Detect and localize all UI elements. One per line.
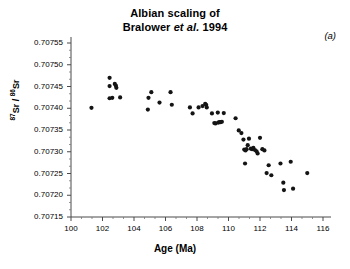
y-tick-label: 0.70720 bbox=[17, 191, 63, 199]
data-point bbox=[281, 181, 285, 185]
data-point bbox=[149, 90, 153, 94]
data-point bbox=[258, 136, 262, 140]
data-point bbox=[222, 111, 226, 115]
data-point bbox=[282, 188, 286, 192]
data-point bbox=[157, 101, 161, 105]
data-point bbox=[267, 163, 271, 167]
data-point bbox=[246, 143, 250, 147]
data-point bbox=[243, 161, 247, 165]
data-point bbox=[168, 90, 172, 94]
data-point bbox=[110, 96, 114, 100]
data-point bbox=[241, 137, 245, 141]
data-point bbox=[190, 111, 194, 115]
data-point bbox=[188, 105, 192, 109]
data-point bbox=[289, 160, 293, 164]
data-point bbox=[239, 131, 243, 135]
data-point bbox=[269, 173, 273, 177]
x-tick-label: 102 bbox=[88, 225, 118, 233]
data-point bbox=[107, 76, 111, 80]
x-tick-label: 110 bbox=[214, 225, 244, 233]
data-point bbox=[233, 116, 237, 120]
x-tick-label: 112 bbox=[245, 225, 275, 233]
x-tick-label: 114 bbox=[277, 225, 307, 233]
y-tick-label: 0.70745 bbox=[17, 83, 63, 91]
data-point bbox=[146, 107, 150, 111]
y-tick-label: 0.70725 bbox=[17, 170, 63, 178]
y-tick-label: 0.70755 bbox=[17, 39, 63, 47]
data-point bbox=[245, 147, 249, 151]
x-tick-label: 106 bbox=[151, 225, 181, 233]
data-point bbox=[305, 171, 309, 175]
y-tick-label: 0.70735 bbox=[17, 126, 63, 134]
y-tick-label: 0.70740 bbox=[17, 104, 63, 112]
data-point bbox=[170, 103, 174, 107]
data-point bbox=[114, 86, 118, 90]
data-point bbox=[220, 120, 224, 124]
data-point bbox=[265, 171, 269, 175]
data-point bbox=[210, 111, 214, 115]
data-point bbox=[146, 96, 150, 100]
x-tick-label: 116 bbox=[308, 225, 338, 233]
x-tick-label: 100 bbox=[56, 225, 86, 233]
data-point bbox=[107, 84, 111, 88]
data-point bbox=[262, 148, 266, 152]
x-tick-label: 108 bbox=[182, 225, 212, 233]
data-point bbox=[89, 106, 93, 110]
data-point bbox=[278, 161, 282, 165]
data-point bbox=[118, 95, 122, 99]
data-point bbox=[291, 187, 295, 191]
data-point bbox=[196, 105, 200, 109]
x-tick-label: 104 bbox=[119, 225, 149, 233]
y-tick-label: 0.70715 bbox=[17, 213, 63, 221]
data-point bbox=[205, 105, 209, 109]
data-point bbox=[247, 137, 251, 141]
y-tick-label: 0.70730 bbox=[17, 148, 63, 156]
y-tick-label: 0.70750 bbox=[17, 61, 63, 69]
figure-panel: Albian scaling of Bralower et al. 1994 (… bbox=[0, 0, 350, 269]
data-point bbox=[256, 151, 260, 155]
data-point bbox=[216, 111, 220, 115]
